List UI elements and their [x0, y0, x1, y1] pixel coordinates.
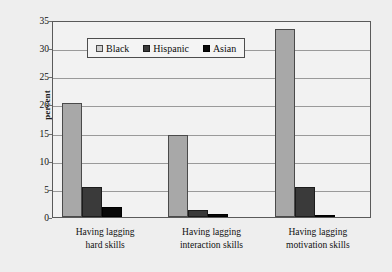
x-category-label-3: Having laggingmotivation skills [265, 226, 371, 251]
x-category-line-1: Having lagging [52, 226, 158, 239]
chart-legend: BlackHispanicAsian [87, 38, 245, 58]
y-tick-label: 30 [25, 44, 49, 54]
legend-item-black: Black [96, 43, 129, 54]
x-axis-category-labels: Having lagginghard skillsHaving laggingi… [52, 226, 371, 266]
legend-item-hispanic: Hispanic [143, 43, 189, 54]
x-category-line-1: Having lagging [265, 226, 371, 239]
y-tick-label: 5 [25, 185, 49, 195]
y-tick-label: 15 [25, 129, 49, 139]
legend-swatch-icon [143, 45, 150, 52]
bar-black-3 [275, 29, 295, 217]
x-category-label-1: Having lagginghard skills [52, 226, 158, 251]
bar-hispanic-2 [188, 210, 208, 217]
bar-asian-1 [102, 207, 122, 217]
y-tick-label: 0 [25, 213, 49, 223]
bar-chart-figure: percent 05101520253035 BlackHispanicAsia… [0, 0, 392, 272]
y-tick-label: 25 [25, 72, 49, 82]
y-tick-label: 20 [25, 100, 49, 110]
y-tick-mark [48, 218, 52, 219]
bar-asian-2 [208, 214, 228, 217]
bar-black-1 [62, 103, 82, 217]
legend-item-asian: Asian [203, 43, 236, 54]
y-tick-label: 35 [25, 16, 49, 26]
legend-label: Asian [213, 43, 236, 54]
bar-hispanic-3 [295, 187, 315, 217]
x-category-line-2: motivation skills [265, 239, 371, 252]
y-tick-label: 10 [25, 157, 49, 167]
bar-hispanic-1 [82, 187, 102, 217]
x-category-line-1: Having lagging [158, 226, 264, 239]
legend-swatch-icon [203, 45, 210, 52]
bar-black-2 [168, 135, 188, 217]
bar-asian-3 [315, 215, 335, 217]
legend-label: Hispanic [153, 43, 189, 54]
x-category-line-2: interaction skills [158, 239, 264, 252]
legend-swatch-icon [96, 45, 103, 52]
x-category-line-2: hard skills [52, 239, 158, 252]
legend-label: Black [106, 43, 129, 54]
x-category-label-2: Having lagginginteraction skills [158, 226, 264, 251]
